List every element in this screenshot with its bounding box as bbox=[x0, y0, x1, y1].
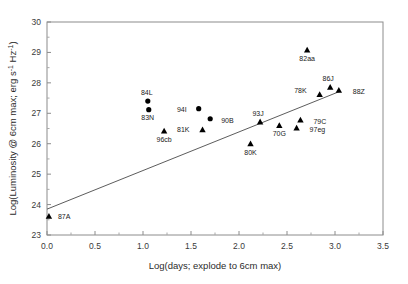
data-point: 86J bbox=[323, 75, 334, 90]
x-tick-label: 3.0 bbox=[329, 241, 341, 251]
data-point: 87A bbox=[46, 213, 71, 220]
regression-line bbox=[47, 91, 340, 209]
data-point-label: 93J bbox=[252, 110, 263, 117]
data-point: 80K bbox=[244, 141, 257, 156]
data-point-label: 90B bbox=[221, 117, 234, 124]
x-tick-label: 2.5 bbox=[281, 241, 293, 251]
triangle-marker bbox=[316, 91, 322, 97]
data-point-label: 84L bbox=[141, 89, 153, 96]
data-point: 97eg bbox=[293, 125, 325, 134]
triangle-marker bbox=[293, 125, 299, 131]
triangle-marker bbox=[257, 119, 263, 125]
data-point-label: 78K bbox=[294, 87, 307, 94]
y-tick-label: 25 bbox=[32, 169, 42, 179]
data-point-layer: 87A84L83N96cb94I90B81K80K93J70G97eg79C82… bbox=[46, 47, 366, 220]
data-point-label: 96cb bbox=[157, 136, 172, 143]
data-point: 93J bbox=[252, 110, 263, 125]
y-tick-label: 24 bbox=[32, 200, 42, 210]
triangle-marker bbox=[327, 84, 333, 90]
data-point: 81K bbox=[177, 126, 206, 133]
data-point: 78K bbox=[294, 87, 323, 97]
axis-layer: 0.00.51.01.52.02.53.03.52324252627282930 bbox=[32, 17, 390, 251]
y-tick-label: 26 bbox=[32, 139, 42, 149]
triangle-marker bbox=[199, 127, 205, 133]
data-point-label: 79C bbox=[313, 118, 326, 125]
data-point: 96cb bbox=[157, 128, 172, 143]
x-tick-label: 1.5 bbox=[185, 241, 197, 251]
data-point-label: 97eg bbox=[310, 126, 326, 134]
chart-figure: 0.00.51.01.52.02.53.03.52324252627282930… bbox=[0, 0, 408, 284]
data-point-label: 94I bbox=[177, 106, 187, 113]
y-tick-label: 29 bbox=[32, 47, 42, 57]
data-point-label: 70G bbox=[273, 130, 286, 137]
data-point: 84L bbox=[141, 89, 153, 104]
scatter-plot: 0.00.51.01.52.02.53.03.52324252627282930… bbox=[0, 0, 408, 284]
data-point: 70G bbox=[273, 122, 286, 137]
circle-marker bbox=[145, 99, 150, 104]
data-point: 94I bbox=[177, 106, 201, 113]
triangle-marker bbox=[276, 122, 282, 128]
data-point: 83N bbox=[141, 107, 154, 121]
y-tick-label: 23 bbox=[32, 230, 42, 240]
triangle-marker bbox=[161, 128, 167, 134]
data-point-label: 87A bbox=[58, 213, 71, 220]
x-tick-label: 0.0 bbox=[41, 241, 53, 251]
y-tick-label: 28 bbox=[32, 78, 42, 88]
data-point-label: 81K bbox=[177, 126, 190, 133]
axis-title-layer: Log(days; explode to 6cm max)Log(Luminos… bbox=[7, 41, 282, 271]
plot-frame bbox=[47, 22, 383, 235]
y-tick-label: 27 bbox=[32, 108, 42, 118]
data-point-label: 88Z bbox=[353, 88, 366, 95]
data-point: 88Z bbox=[336, 87, 366, 95]
circle-marker bbox=[196, 106, 201, 111]
y-axis-title: Log(Luminosity @ 6cm max; erg s-1 Hz-1) bbox=[7, 41, 19, 215]
triangle-marker bbox=[304, 47, 310, 53]
data-point-label: 80K bbox=[244, 149, 257, 156]
x-tick-label: 2.0 bbox=[233, 241, 245, 251]
circle-marker bbox=[208, 116, 213, 121]
triangle-marker bbox=[247, 141, 253, 147]
data-point: 79C bbox=[297, 117, 326, 125]
regression-line-layer bbox=[47, 91, 340, 209]
data-point-label: 82aa bbox=[299, 55, 315, 62]
circle-marker bbox=[146, 107, 151, 112]
x-axis-title: Log(days; explode to 6cm max) bbox=[149, 260, 282, 271]
x-tick-label: 1.0 bbox=[137, 241, 149, 251]
triangle-marker bbox=[336, 87, 342, 93]
x-tick-label: 0.5 bbox=[89, 241, 101, 251]
data-point-label: 83N bbox=[141, 114, 154, 121]
data-point: 90B bbox=[208, 116, 234, 124]
data-point: 82aa bbox=[299, 47, 315, 62]
x-tick-label: 3.5 bbox=[377, 241, 389, 251]
data-point-label: 86J bbox=[323, 75, 334, 82]
y-tick-label: 30 bbox=[32, 17, 42, 27]
triangle-marker bbox=[297, 117, 303, 123]
